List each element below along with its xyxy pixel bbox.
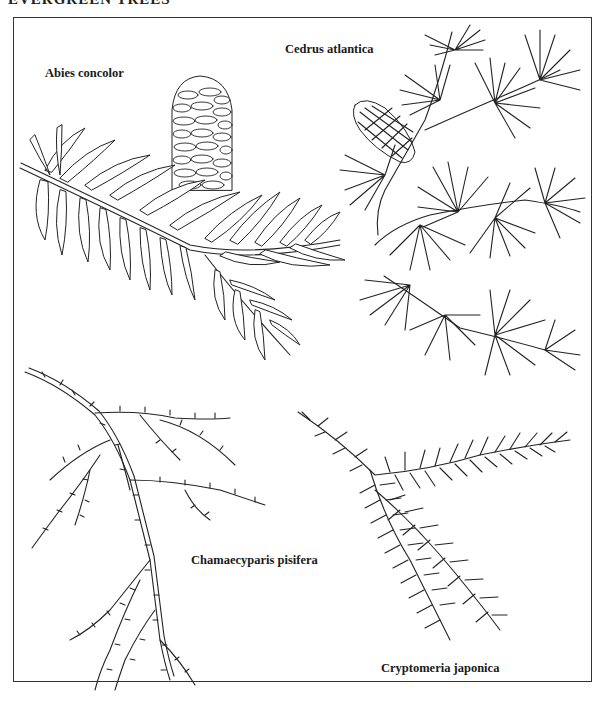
label-cedrus-atlantica: Cedrus atlantica xyxy=(285,42,374,57)
abies-concolor-drawing xyxy=(20,76,345,360)
cryptomeria-japonica-drawing xyxy=(298,412,570,640)
botanical-illustration xyxy=(0,0,603,702)
chamaecyparis-pisifera-drawing xyxy=(25,368,265,690)
cedrus-atlantica-drawing xyxy=(340,25,585,375)
label-cryptomeria-japonica: Cryptomeria japonica xyxy=(381,661,499,676)
abies-cone-icon xyxy=(172,76,232,190)
label-abies-concolor: Abies concolor xyxy=(45,66,124,81)
label-chamaecyparis-pisifera: Chamaecyparis pisifera xyxy=(191,553,318,568)
